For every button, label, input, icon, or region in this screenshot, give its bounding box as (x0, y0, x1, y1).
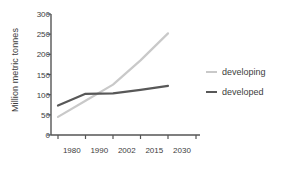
line-chart: Million metric tonnes 050100150200250300… (0, 0, 288, 170)
series-line-developed (58, 86, 168, 106)
x-tick-label: 2030 (173, 146, 191, 155)
x-tick-label: 1990 (90, 146, 108, 155)
legend-item-developing: developing (206, 62, 288, 82)
chart-legend: developingdeveloped (206, 62, 288, 102)
legend-label: developing (222, 67, 266, 77)
x-axis-tick-labels: 19801990200220152030 (0, 146, 288, 160)
x-tick-label: 1980 (63, 146, 81, 155)
legend-swatch-icon (206, 91, 217, 93)
legend-item-developed: developed (206, 82, 288, 102)
legend-label: developed (222, 87, 264, 97)
series-line-developing (58, 33, 168, 116)
x-tick-label: 2002 (118, 146, 136, 155)
x-tick-label: 2015 (145, 146, 163, 155)
legend-swatch-icon (206, 71, 217, 73)
